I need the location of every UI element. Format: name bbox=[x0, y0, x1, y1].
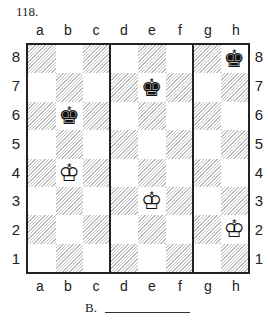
square-d4[interactable] bbox=[111, 159, 139, 187]
square-e1[interactable] bbox=[138, 244, 166, 272]
rank-label: 2 bbox=[8, 216, 24, 245]
rank-label: 7 bbox=[251, 72, 267, 101]
square-e7[interactable]: ♚ bbox=[138, 73, 166, 101]
square-c1[interactable] bbox=[83, 244, 111, 272]
file-label: h bbox=[222, 278, 250, 294]
rank-label: 5 bbox=[8, 130, 24, 159]
answer-blank-line[interactable] bbox=[105, 312, 190, 313]
rank-label: 4 bbox=[8, 159, 24, 188]
square-h5[interactable] bbox=[221, 130, 249, 158]
file-label: g bbox=[194, 22, 222, 38]
square-h8[interactable]: ♚ bbox=[221, 45, 249, 73]
square-e5[interactable] bbox=[138, 130, 166, 158]
square-a2[interactable] bbox=[28, 215, 56, 243]
square-a5[interactable] bbox=[28, 130, 56, 158]
black-king-icon[interactable]: ♚ bbox=[223, 47, 245, 71]
square-h7[interactable] bbox=[221, 73, 249, 101]
square-f5[interactable] bbox=[166, 130, 194, 158]
square-f6[interactable] bbox=[166, 102, 194, 130]
square-a1[interactable] bbox=[28, 244, 56, 272]
rank-label: 3 bbox=[8, 187, 24, 216]
square-e4[interactable] bbox=[138, 159, 166, 187]
file-label: e bbox=[138, 22, 166, 38]
square-b3[interactable] bbox=[56, 187, 84, 215]
file-label: e bbox=[138, 278, 166, 294]
file-labels-bottom: a b c d e f g h bbox=[26, 278, 250, 294]
black-king-icon[interactable]: ♚ bbox=[58, 104, 80, 128]
square-d1[interactable] bbox=[111, 244, 139, 272]
rank-label: 8 bbox=[8, 43, 24, 72]
square-a3[interactable] bbox=[28, 187, 56, 215]
square-f4[interactable] bbox=[166, 159, 194, 187]
square-b5[interactable] bbox=[56, 130, 84, 158]
square-g2[interactable] bbox=[193, 215, 221, 243]
square-d8[interactable] bbox=[111, 45, 139, 73]
square-b6[interactable]: ♚ bbox=[56, 102, 84, 130]
white-king-icon[interactable]: ♔ bbox=[223, 217, 245, 241]
square-a6[interactable] bbox=[28, 102, 56, 130]
square-g4[interactable] bbox=[193, 159, 221, 187]
square-a4[interactable] bbox=[28, 159, 56, 187]
square-g6[interactable] bbox=[193, 102, 221, 130]
file-label: d bbox=[110, 278, 138, 294]
file-label: a bbox=[26, 278, 54, 294]
square-b2[interactable] bbox=[56, 215, 84, 243]
rank-label: 7 bbox=[8, 72, 24, 101]
white-king-icon[interactable]: ♔ bbox=[58, 161, 80, 185]
square-d7[interactable] bbox=[111, 73, 139, 101]
square-g5[interactable] bbox=[193, 130, 221, 158]
square-f8[interactable] bbox=[166, 45, 194, 73]
square-h4[interactable] bbox=[221, 159, 249, 187]
white-king-icon[interactable]: ♔ bbox=[141, 189, 163, 213]
rank-label: 1 bbox=[8, 245, 24, 274]
square-d5[interactable] bbox=[111, 130, 139, 158]
square-a8[interactable] bbox=[28, 45, 56, 73]
square-a7[interactable] bbox=[28, 73, 56, 101]
square-b8[interactable] bbox=[56, 45, 84, 73]
square-g7[interactable] bbox=[193, 73, 221, 101]
square-c5[interactable] bbox=[83, 130, 111, 158]
square-e6[interactable] bbox=[138, 102, 166, 130]
square-e2[interactable] bbox=[138, 215, 166, 243]
rank-label: 5 bbox=[251, 130, 267, 159]
square-g3[interactable] bbox=[193, 187, 221, 215]
problem-number: 118. bbox=[16, 4, 38, 20]
file-label: c bbox=[82, 278, 110, 294]
rank-label: 4 bbox=[251, 159, 267, 188]
answer-label: B. bbox=[85, 300, 97, 316]
square-g1[interactable] bbox=[193, 244, 221, 272]
square-h3[interactable] bbox=[221, 187, 249, 215]
square-h6[interactable] bbox=[221, 102, 249, 130]
square-c3[interactable] bbox=[83, 187, 111, 215]
square-f1[interactable] bbox=[166, 244, 194, 272]
square-e3[interactable]: ♔ bbox=[138, 187, 166, 215]
square-c7[interactable] bbox=[83, 73, 111, 101]
square-c4[interactable] bbox=[83, 159, 111, 187]
black-king-icon[interactable]: ♚ bbox=[141, 76, 163, 100]
file-label: b bbox=[54, 278, 82, 294]
square-f3[interactable] bbox=[166, 187, 194, 215]
file-labels-top: a b c d e f g h bbox=[26, 22, 250, 38]
square-g8[interactable] bbox=[193, 45, 221, 73]
square-h1[interactable] bbox=[221, 244, 249, 272]
square-h2[interactable]: ♔ bbox=[221, 215, 249, 243]
square-d3[interactable] bbox=[111, 187, 139, 215]
square-f2[interactable] bbox=[166, 215, 194, 243]
square-b7[interactable] bbox=[56, 73, 84, 101]
square-e8[interactable] bbox=[138, 45, 166, 73]
file-label: c bbox=[82, 22, 110, 38]
square-c8[interactable] bbox=[83, 45, 111, 73]
file-label: f bbox=[166, 278, 194, 294]
file-label: d bbox=[110, 22, 138, 38]
square-f7[interactable] bbox=[166, 73, 194, 101]
file-label: g bbox=[194, 278, 222, 294]
file-label: a bbox=[26, 22, 54, 38]
square-c2[interactable] bbox=[83, 215, 111, 243]
square-c6[interactable] bbox=[83, 102, 111, 130]
file-label: b bbox=[54, 22, 82, 38]
square-d6[interactable] bbox=[111, 102, 139, 130]
square-b1[interactable] bbox=[56, 244, 84, 272]
rank-label: 6 bbox=[8, 101, 24, 130]
square-d2[interactable] bbox=[111, 215, 139, 243]
square-b4[interactable]: ♔ bbox=[56, 159, 84, 187]
